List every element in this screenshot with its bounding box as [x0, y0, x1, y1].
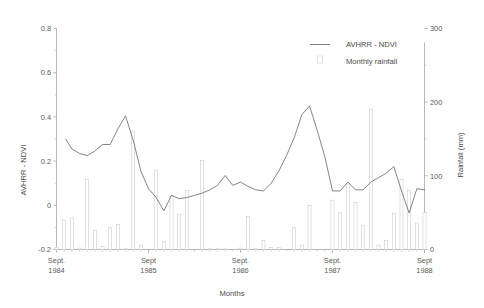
rainfall-bar — [124, 249, 127, 250]
rainfall-bar — [308, 205, 311, 249]
y2-tick-label: 200 — [430, 98, 442, 107]
x-tick-label-year: 1984 — [48, 266, 64, 275]
rainfall-bar — [201, 160, 204, 249]
rainfall-bar — [162, 241, 165, 249]
chart-figure: 0.80.60.40.20-0.23002001000Sept.1984Sept… — [0, 0, 484, 308]
rainfall-bar — [293, 227, 296, 249]
rainfall-bar — [78, 248, 81, 249]
rainfall-bar — [93, 230, 96, 249]
rainfall-bar — [277, 247, 280, 249]
rainfall-bar — [185, 191, 188, 250]
rainfall-bar — [354, 202, 357, 249]
rainfall-bar — [55, 247, 58, 249]
y-tick-label: 0.6 — [41, 68, 51, 77]
y-tick-label: 0.8 — [41, 24, 51, 33]
rainfall-bar — [132, 132, 135, 250]
rainfall-bar — [423, 213, 426, 250]
rainfall-bars — [55, 110, 426, 250]
rainfall-bar — [300, 245, 303, 249]
rainfall-bar — [362, 225, 365, 249]
rainfall-bar — [377, 245, 380, 249]
x-tick-label-year: 1988 — [416, 266, 432, 275]
y-tick-label: 0.4 — [41, 113, 51, 122]
rainfall-bar — [254, 249, 257, 250]
rainfall-bar — [101, 247, 104, 250]
rainfall-bar — [346, 184, 349, 250]
rainfall-bar — [155, 170, 158, 250]
y-tick-label: 0 — [47, 201, 51, 210]
x-tick-label-year: 1987 — [324, 266, 340, 275]
y-tick-label: -0.2 — [38, 245, 51, 254]
rainfall-bar — [408, 191, 411, 250]
rainfall-bar — [247, 216, 250, 249]
y-axis-title: AVHRR - NDVI — [19, 145, 28, 196]
x-tick-label-month: Sept. — [48, 256, 65, 265]
rainfall-bar — [392, 213, 395, 249]
chart-legend: AVHRR - NDVIMonthly rainfall — [310, 40, 397, 66]
x-tick-label-month: Sept — [141, 256, 156, 265]
ndvi-rainfall-chart: 0.80.60.40.20-0.23002001000Sept.1984Sept… — [0, 0, 484, 308]
x-axis-title: Months — [220, 289, 245, 298]
legend-bar-swatch — [318, 56, 323, 63]
rainfall-bar — [116, 224, 119, 249]
legend-label: AVHRR - NDVI — [346, 40, 397, 49]
rainfall-bar — [385, 241, 388, 250]
y2-axis-title: Rainfall (mm) — [456, 132, 465, 178]
x-tick-label-month: Sept. — [324, 256, 341, 265]
rainfall-bar — [224, 249, 227, 250]
rainfall-bar — [86, 180, 89, 250]
rainfall-bar — [70, 218, 73, 250]
x-tick-label-month: Sept. — [232, 256, 249, 265]
rainfall-bar — [270, 247, 273, 249]
rainfall-bar — [239, 248, 242, 249]
rainfall-bar — [178, 214, 181, 249]
x-tick-label-month: Sept — [417, 256, 432, 265]
rainfall-bar — [139, 245, 142, 249]
x-tick-label-year: 1986 — [232, 266, 248, 275]
x-tick-label-year: 1985 — [140, 266, 156, 275]
rainfall-bar — [369, 110, 372, 250]
rainfall-bar — [331, 200, 334, 249]
y2-tick-label: 0 — [430, 245, 434, 254]
rainfall-bar — [208, 249, 211, 250]
legend-label: Monthly rainfall — [346, 57, 397, 66]
rainfall-bar — [216, 249, 219, 250]
y2-tick-label: 300 — [430, 24, 442, 33]
rainfall-bar — [170, 196, 173, 249]
rainfall-bar — [262, 241, 265, 250]
rainfall-bar — [109, 227, 112, 249]
rainfall-bar — [415, 223, 418, 250]
rainfall-bar — [339, 213, 342, 250]
y2-tick-label: 100 — [430, 172, 442, 181]
rainfall-bar — [63, 220, 66, 249]
y-tick-label: 0.2 — [41, 157, 51, 166]
